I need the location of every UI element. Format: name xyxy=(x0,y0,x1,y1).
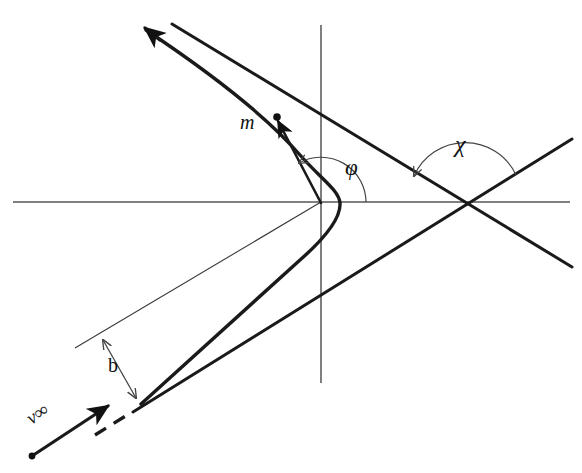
particle-dot xyxy=(273,113,281,121)
scattering-diagram: m φ χ b v∞ xyxy=(0,0,582,473)
trajectory-exit-arrow xyxy=(145,28,160,40)
velocity-origin-dot xyxy=(29,453,36,460)
trajectory-dashes xyxy=(95,412,132,435)
hyperbola-trajectory xyxy=(141,30,340,404)
scattering-angle-label: χ xyxy=(455,132,466,156)
true-anomaly-label: φ xyxy=(345,156,358,179)
diagram-canvas xyxy=(0,0,582,473)
mass-label: m xyxy=(240,112,254,132)
radius-vector xyxy=(278,121,321,203)
impact-parameter-label: b xyxy=(108,355,118,375)
outgoing-asymptote xyxy=(172,24,572,267)
